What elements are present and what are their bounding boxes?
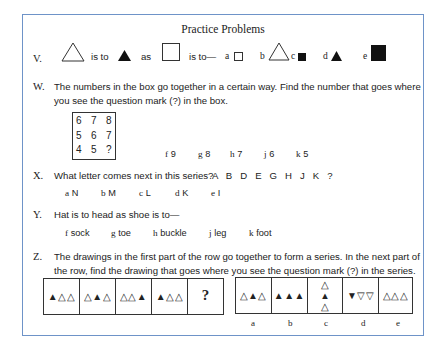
option-y-f[interactable]: f sock	[65, 228, 90, 238]
number-grid-box: 6 7 8 5 6 7 4 5 ?	[72, 112, 116, 160]
option-x-a[interactable]: a N	[65, 188, 78, 198]
is-to-dash-text: is to—	[189, 51, 216, 62]
as-text: as	[141, 51, 151, 62]
question-z-text-1: The drawings in the first part of the ro…	[54, 251, 420, 262]
series-cell: △△▲	[116, 279, 152, 314]
grid-cell: 8	[106, 115, 118, 130]
question-x-label: X.	[33, 170, 43, 181]
grid-cell: 4	[76, 144, 91, 159]
series-cell: △▲△	[80, 279, 116, 314]
answer-cell-c[interactable]: △ ▲ △	[308, 278, 343, 313]
option-v-a-letter: a	[225, 51, 229, 61]
question-w-text-2: you see the question mark (?) in the box…	[54, 95, 228, 106]
grid-cell: 6	[91, 130, 106, 145]
grid-cell: 7	[106, 130, 118, 145]
answer-cell-a[interactable]: △▲△	[236, 278, 272, 313]
question-w-text-1: The numbers in the box go together in a …	[54, 81, 421, 92]
option-v-d-letter: d	[323, 51, 328, 61]
question-z-label: Z.	[33, 251, 42, 262]
grid-cell: 5	[91, 144, 106, 159]
answer-cell-d[interactable]: ▼▽▽	[343, 278, 380, 313]
option-v-b-letter: b	[260, 51, 265, 61]
answer-cell-e[interactable]: △△△	[379, 278, 412, 313]
option-y-g[interactable]: g toe	[111, 228, 131, 238]
series-cell: ▲△△	[152, 279, 188, 314]
option-v-e-letter: e	[363, 51, 367, 61]
option-x-d[interactable]: d K	[175, 188, 188, 198]
option-x-e[interactable]: e I	[211, 188, 220, 198]
letter-series: A B D E G H J K ?	[212, 170, 333, 181]
grid-cell: 6	[76, 115, 91, 130]
answer-label-c: c	[324, 318, 328, 328]
question-y-text: Hat is to head as shoe is to—	[54, 209, 179, 220]
grid-cell: ?	[106, 144, 118, 159]
answer-label-a: a	[251, 318, 255, 328]
practice-problems-frame: Practice Problems V. is to as is to— a b…	[22, 14, 424, 336]
series-cell: ▲△△	[44, 279, 80, 314]
filled-triangle-icon	[118, 50, 131, 61]
small-open-square-icon[interactable]	[234, 52, 243, 61]
option-w-g[interactable]: g 8	[198, 149, 210, 159]
question-z-text-2: the row, find the drawing that goes wher…	[54, 265, 416, 276]
option-y-k[interactable]: k foot	[249, 228, 271, 238]
question-w-label: W.	[33, 81, 45, 92]
option-w-j[interactable]: j 6	[264, 149, 274, 159]
page-title: Practice Problems	[23, 23, 423, 35]
option-y-h[interactable]: h buckle	[153, 228, 187, 238]
small-filled-square-icon[interactable]	[298, 53, 306, 61]
option-y-j[interactable]: j leg	[209, 228, 226, 238]
question-x-text: What letter comes next in this series?	[54, 170, 213, 181]
option-x-b[interactable]: b M	[101, 188, 116, 198]
option-w-f[interactable]: f 9	[165, 149, 176, 159]
answer-options-row: △▲△ ▲▲▲ △ ▲ △ ▼▽▽ △△△	[235, 277, 413, 314]
question-y-label: Y.	[33, 209, 42, 220]
answer-label-d: d	[361, 318, 366, 328]
option-w-h[interactable]: h 7	[230, 149, 242, 159]
grid-cell: 5	[76, 130, 91, 145]
is-to-text: is to	[91, 51, 109, 62]
answer-cell-b[interactable]: ▲▲▲	[272, 278, 309, 313]
question-v-label: V.	[33, 53, 42, 64]
figure-series-row: ▲△△ △▲△ △△▲ ▲△△ ?	[43, 278, 224, 315]
open-triangle-icon	[61, 42, 85, 62]
grid-cell: 7	[91, 115, 106, 130]
large-open-triangle-icon[interactable]	[268, 42, 290, 61]
open-square-icon	[162, 43, 180, 61]
large-filled-square-icon[interactable]	[371, 45, 386, 61]
filled-triangle-icon[interactable]	[331, 51, 342, 61]
question-mark-cell: ?	[188, 279, 223, 314]
option-x-c[interactable]: c L	[139, 188, 151, 198]
answer-label-e: e	[396, 318, 400, 328]
answer-label-b: b	[288, 318, 293, 328]
option-w-k[interactable]: k 5	[296, 149, 308, 159]
option-v-c-letter: c	[291, 51, 295, 61]
